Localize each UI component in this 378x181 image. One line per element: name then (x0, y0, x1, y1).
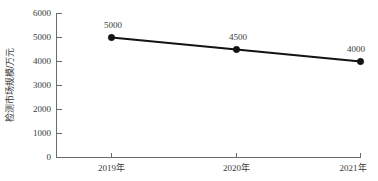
y-tick-label: 5000 (33, 32, 52, 42)
y-tick-label: 1000 (33, 128, 52, 138)
y-tick-label: 3000 (33, 80, 52, 90)
data-point-marker (357, 58, 363, 64)
chart-canvas: 6000 5000 4000 3000 2000 1000 0 2019年 20… (0, 0, 378, 181)
data-point-label: 5000 (104, 20, 123, 30)
data-point-marker (108, 34, 114, 40)
x-tick-label: 2019年 (98, 162, 125, 173)
y-axis-title: 检测市场规模/万元 (4, 48, 15, 123)
data-point-marker (233, 46, 239, 52)
y-tick-label: 0 (47, 152, 52, 162)
data-point-label: 4500 (229, 32, 248, 42)
x-tick-label: 2021年 (340, 162, 367, 173)
y-tick-label: 2000 (33, 104, 52, 114)
data-point-label: 4000 (347, 44, 366, 54)
y-tick-label: 4000 (33, 56, 52, 66)
line-chart: 6000 5000 4000 3000 2000 1000 0 2019年 20… (0, 0, 378, 181)
y-tick-label: 6000 (33, 8, 52, 18)
x-tick-label: 2020年 (223, 162, 250, 173)
